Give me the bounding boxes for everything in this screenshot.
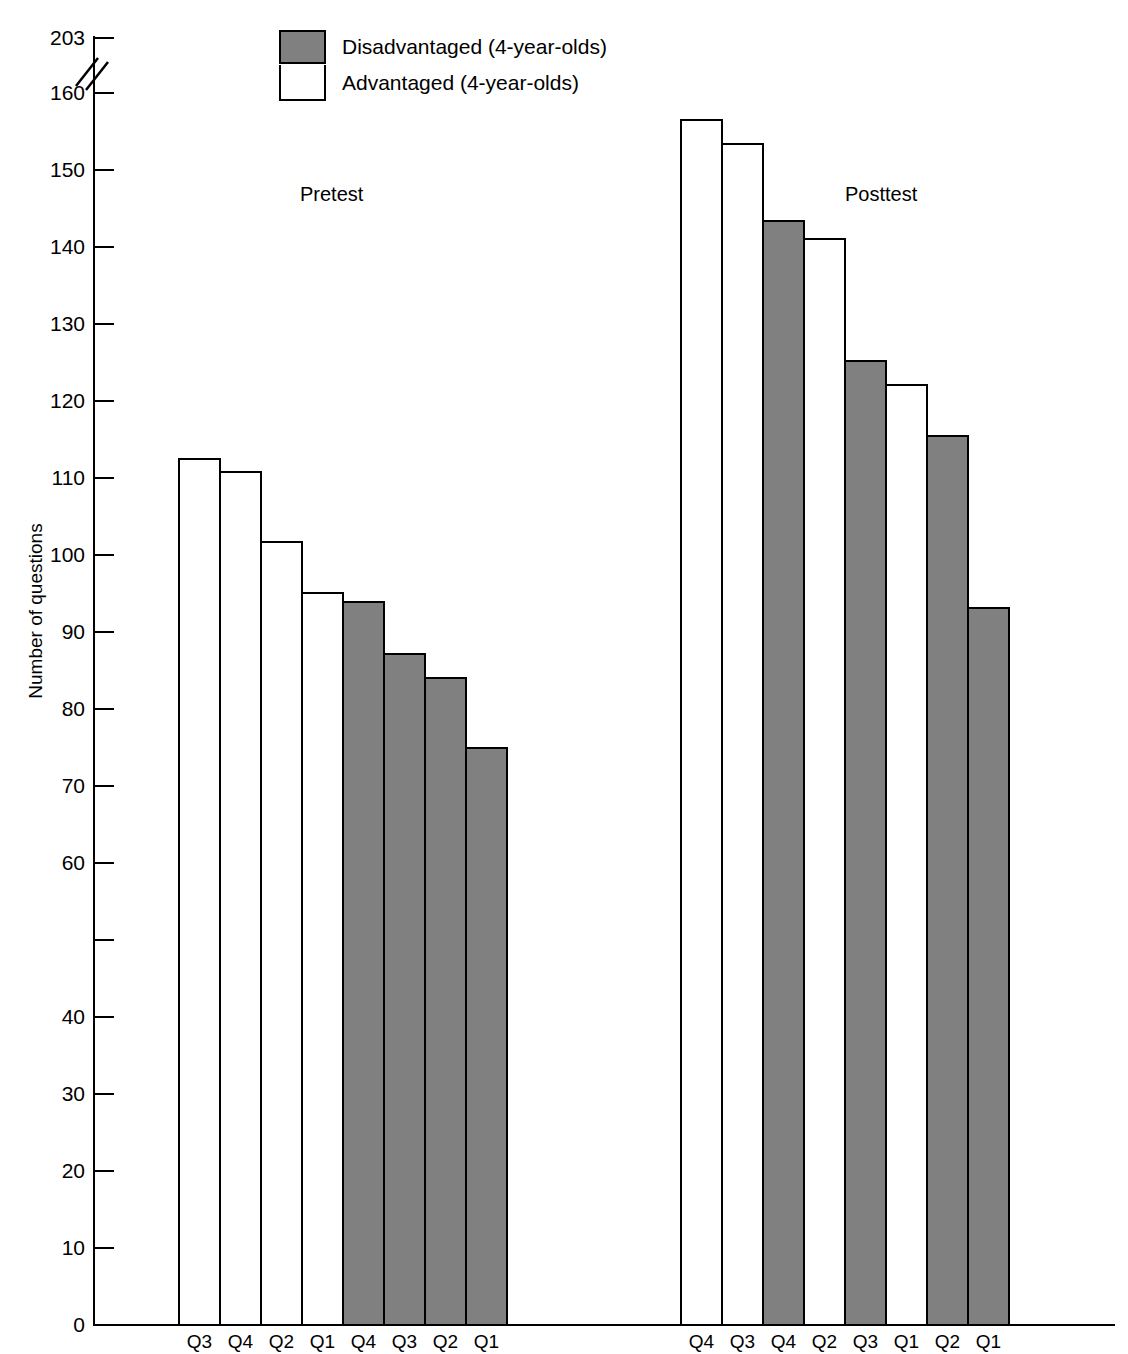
x-tick-label-posttest-0: Q4 [680, 1331, 723, 1353]
bar-pretest-Q1-disadvantaged [465, 747, 508, 1326]
bar-posttest-Q1-disadvantaged [967, 607, 1010, 1326]
bar-pretest-Q3-advantaged [178, 458, 221, 1326]
bar-pretest-Q4-advantaged [219, 471, 262, 1326]
bar-pretest-Q2-disadvantaged [424, 677, 467, 1326]
bar-posttest-Q4-disadvantaged [762, 220, 805, 1326]
x-tick-label-pretest-1: Q4 [219, 1331, 262, 1353]
x-tick-label-posttest-6: Q2 [926, 1331, 969, 1353]
bar-pretest-Q1-advantaged [301, 592, 344, 1326]
bar-chart: Number of questions 20316015014013012011… [0, 0, 1128, 1354]
x-tick-label-pretest-7: Q1 [465, 1331, 508, 1353]
x-tick-label-posttest-7: Q1 [967, 1331, 1010, 1353]
x-tick-label-pretest-4: Q4 [342, 1331, 385, 1353]
bar-posttest-Q3-advantaged [721, 143, 764, 1326]
x-tick-label-posttest-5: Q1 [885, 1331, 928, 1353]
bar-posttest-Q2-disadvantaged [926, 435, 969, 1326]
x-tick-label-pretest-0: Q3 [178, 1331, 221, 1353]
x-tick-label-posttest-3: Q2 [803, 1331, 846, 1353]
bar-pretest-Q3-disadvantaged [383, 653, 426, 1326]
x-tick-label-posttest-1: Q3 [721, 1331, 764, 1353]
x-tick-label-pretest-5: Q3 [383, 1331, 426, 1353]
bars-layer: Q3Q4Q2Q1Q4Q3Q2Q1Q4Q3Q4Q2Q3Q1Q2Q1 [0, 0, 1128, 1354]
bar-posttest-Q3-disadvantaged [844, 360, 887, 1326]
bar-posttest-Q4-advantaged [680, 119, 723, 1326]
x-tick-label-posttest-2: Q4 [762, 1331, 805, 1353]
bar-posttest-Q2-advantaged [803, 238, 846, 1326]
bar-pretest-Q4-disadvantaged [342, 601, 385, 1326]
x-tick-label-pretest-6: Q2 [424, 1331, 467, 1353]
x-tick-label-pretest-3: Q1 [301, 1331, 344, 1353]
bar-posttest-Q1-advantaged [885, 384, 928, 1326]
x-tick-label-pretest-2: Q2 [260, 1331, 303, 1353]
bar-pretest-Q2-advantaged [260, 541, 303, 1326]
x-tick-label-posttest-4: Q3 [844, 1331, 887, 1353]
